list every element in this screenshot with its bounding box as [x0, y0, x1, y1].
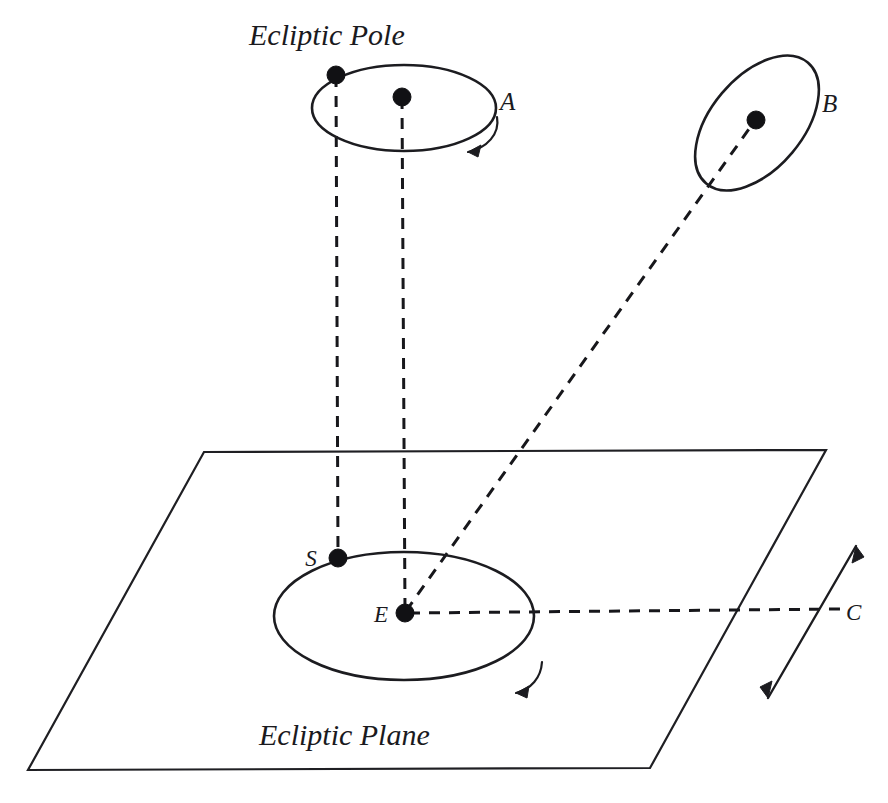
ecliptic-pole-label: Ecliptic Pole — [248, 18, 405, 51]
orbit-b-label: B — [822, 90, 837, 117]
orbit-a-center-dot — [393, 88, 411, 106]
dashed-projection-acenter-to-earth — [402, 98, 405, 612]
earth-dot — [396, 604, 414, 622]
dashed-line-of-sight-earth-to-b — [406, 122, 754, 611]
orbit-a-label: A — [498, 88, 516, 115]
pole-point-dot — [327, 66, 345, 84]
sun-dot — [329, 549, 347, 567]
diagram-canvas: Ecliptic Pole Ecliptic Plane A B C S E — [0, 0, 888, 803]
rotation-arrow-a-head — [468, 145, 481, 157]
rotation-arrow-a-curve — [468, 117, 497, 152]
rotation-arrow-ecliptic-head — [516, 686, 529, 698]
ecliptic-diagram: Ecliptic Pole Ecliptic Plane A B C S E — [0, 0, 888, 803]
c-axis-double-arrow-shaft — [768, 546, 856, 698]
direction-c-label: C — [846, 600, 862, 625]
earth-label: E — [373, 602, 388, 627]
dashed-direction-earth-to-c — [409, 609, 842, 613]
dashed-projection-pole-to-sun — [336, 76, 338, 557]
ecliptic-plane-label: Ecliptic Plane — [258, 718, 430, 751]
orbit-b-center-dot — [747, 111, 765, 129]
sun-label: S — [305, 546, 317, 571]
